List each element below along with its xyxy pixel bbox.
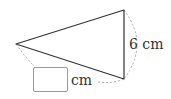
unit-label: cm	[71, 73, 92, 87]
answer-input-box[interactable]	[33, 67, 68, 92]
dimension-arc-bottom-right	[98, 79, 124, 83]
side-length-label: 6 cm	[129, 37, 163, 51]
